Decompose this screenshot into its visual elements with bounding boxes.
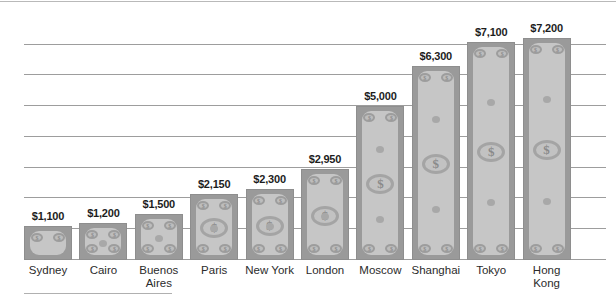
plot-area: $$$$$$$$$$$$$$$$$$$$$$$$$$$$$$$$$$$$$$$$… [24, 20, 606, 260]
banknote-medallion-icon: $ [422, 154, 450, 174]
bar-value-label: $5,000 [346, 90, 414, 102]
bar-slot: $$$$$ [523, 20, 571, 260]
banknote-seal-icon: $ [164, 221, 176, 230]
bar-hong-kong[interactable]: $$$$$ [523, 38, 571, 260]
bar-value-label: $2,950 [291, 153, 359, 165]
banknote-seal-icon: $ [474, 49, 486, 58]
bar-paris[interactable]: $$$$$ [190, 194, 238, 260]
banknote-dot [487, 99, 495, 106]
top-border-rule [0, 1, 616, 2]
banknote-dot [155, 235, 163, 242]
banknote-seal-icon: $ [419, 244, 431, 253]
bar-value-label: $6,300 [402, 50, 470, 62]
banknote-seal-icon: $ [142, 244, 154, 253]
banknote-seal-icon: $ [419, 73, 431, 82]
banknote-seal-icon: $ [275, 196, 287, 205]
bar-shanghai[interactable]: $$$$$ [412, 66, 460, 260]
bar-cairo[interactable]: $$$$ [79, 223, 127, 260]
chart-container: $$$$$$$$$$$$$$$$$$$$$$$$$$$$$$$$$$$$$$$$… [0, 0, 616, 300]
banknote-seal-icon: $ [253, 244, 265, 253]
banknote-seal-icon: $ [275, 244, 287, 253]
bar-slot: $$ [24, 20, 72, 260]
banknote-dot [543, 96, 551, 103]
footer-rule [24, 293, 172, 294]
banknote-seal-icon: $ [441, 73, 453, 82]
bar-tokyo[interactable]: $$$$$ [467, 42, 515, 260]
bar-slot: $$$$$ [467, 20, 515, 260]
banknote-medallion-icon: $ [533, 140, 561, 160]
banknote-dot [321, 213, 329, 220]
banknote-seal-icon: $ [219, 201, 231, 210]
banknote-seal-icon: $ [308, 244, 320, 253]
category-label: Hong Kong [511, 264, 583, 290]
banknote-seal-icon: $ [253, 196, 265, 205]
banknote-seal-icon: $ [552, 244, 564, 253]
banknote-seal-icon: $ [164, 244, 176, 253]
banknote-seal-icon: $ [441, 244, 453, 253]
banknote-dot [266, 223, 274, 230]
bar-new-york[interactable]: $$$$$ [246, 189, 294, 260]
bar-slot: $$$$$ [246, 20, 294, 260]
bar-moscow[interactable]: $$$$$ [356, 106, 404, 260]
banknote-dot [99, 240, 107, 247]
bar-value-label: $2,300 [236, 173, 304, 185]
banknote-seal-icon: $ [330, 244, 342, 253]
bar-buenos-aires[interactable]: $$$$ [135, 214, 183, 260]
banknote-seal-icon: $ [142, 221, 154, 230]
bar-slot: $$$$$ [190, 20, 238, 260]
bar-slot: $$$$ [135, 20, 183, 260]
banknote-medallion-icon: $ [477, 142, 505, 162]
banknote-seal-icon: $ [530, 244, 542, 253]
bar-value-label: $1,500 [125, 198, 193, 210]
banknote-seal-icon: $ [197, 201, 209, 210]
banknote-dot [432, 206, 440, 213]
bar-slot: $$$$$ [356, 20, 404, 260]
banknote-seal-icon: $ [496, 49, 508, 58]
bar-slot: $$$$ [79, 20, 127, 260]
bar-slot: $$$$$ [301, 20, 349, 260]
bars-group: $$$$$$$$$$$$$$$$$$$$$$$$$$$$$$$$$$$$$$$$… [24, 20, 606, 260]
bar-sydney[interactable]: $$ [24, 226, 72, 260]
banknote-dot [543, 198, 551, 205]
bar-value-label: $7,200 [513, 22, 581, 34]
bar-london[interactable]: $$$$$ [301, 169, 349, 260]
